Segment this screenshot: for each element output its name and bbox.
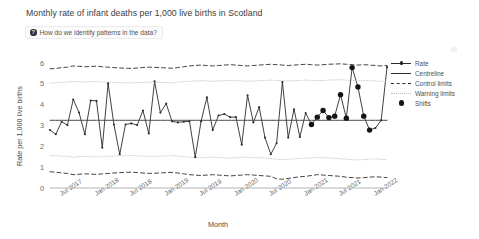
shift-marker[interactable] xyxy=(315,114,320,119)
rate-point xyxy=(206,96,208,98)
legend-swatch-line-marker-icon xyxy=(391,58,411,68)
legend-item-centreline[interactable]: Centreline xyxy=(391,68,477,78)
legend-label: Rate xyxy=(415,60,429,67)
rate-point xyxy=(235,116,237,118)
shift-marker[interactable] xyxy=(332,113,337,118)
rate-point xyxy=(374,127,376,129)
x-tick-label: Jul 2017 xyxy=(58,177,83,197)
x-tick-label: Jul 2018 xyxy=(128,177,153,197)
rate-point xyxy=(270,153,272,155)
y-axis-title: Rate per 1,000 live births xyxy=(15,86,24,166)
rate-point xyxy=(252,121,254,123)
x-tick-label: Jan 2019 xyxy=(163,176,190,197)
rate-point xyxy=(113,123,115,125)
rate-point xyxy=(183,121,185,123)
shift-marker[interactable] xyxy=(349,65,354,70)
rate-point xyxy=(194,156,196,158)
rate-point xyxy=(171,120,173,122)
rate-point xyxy=(95,100,97,102)
rate-point xyxy=(130,122,132,124)
y-tick-label: 5 xyxy=(40,79,44,88)
chart-page: Monthly rate of infant deaths per 1,000 … xyxy=(0,0,479,239)
shift-marker[interactable] xyxy=(320,108,325,113)
shift-marker[interactable] xyxy=(309,122,314,127)
series-upper-control-limit xyxy=(50,64,387,69)
shift-marker[interactable] xyxy=(344,116,349,121)
x-tick-label: Jan 2020 xyxy=(233,176,260,197)
y-tick-label: 6 xyxy=(40,59,44,68)
shift-marker[interactable] xyxy=(338,92,343,97)
rate-point xyxy=(386,66,388,68)
rate-point xyxy=(165,103,167,105)
shift-marker[interactable] xyxy=(361,113,366,118)
rate-point xyxy=(293,108,295,110)
x-tick-label: Jan 2022 xyxy=(372,176,399,197)
rate-point xyxy=(223,113,225,115)
series-lower-warning-limit xyxy=(50,156,387,160)
rate-point xyxy=(159,112,161,114)
rate-point xyxy=(276,142,278,144)
legend-item-warning-limits[interactable]: Warning limits xyxy=(391,88,477,98)
rate-point xyxy=(200,120,202,122)
control-chart: 0123456 Jul 2017Jan 2018Jul 2018Jan 2019… xyxy=(0,0,479,239)
rate-point xyxy=(305,112,307,114)
rate-point xyxy=(212,129,214,131)
y-tick-label: 0 xyxy=(40,184,44,193)
rate-point xyxy=(72,98,74,100)
rate-point xyxy=(119,153,121,155)
x-axis-ticks: Jul 2017Jan 2018Jul 2018Jan 2019Jul 2019… xyxy=(58,176,399,197)
rate-point xyxy=(188,120,190,122)
y-tick-label: 3 xyxy=(40,121,44,130)
rate-point xyxy=(90,99,92,101)
legend-item-shifts[interactable]: Shifts xyxy=(391,98,477,108)
rate-point xyxy=(66,124,68,126)
rate-point xyxy=(247,94,249,96)
y-tick-label: 4 xyxy=(40,100,44,109)
x-tick-label: Jan 2018 xyxy=(93,176,120,197)
chart-svg: 0123456 Jul 2017Jan 2018Jul 2018Jan 2019… xyxy=(0,0,479,239)
rate-point xyxy=(61,121,63,123)
legend-label: Control limits xyxy=(415,80,452,87)
rate-point xyxy=(287,137,289,139)
shift-marker[interactable] xyxy=(326,115,331,120)
y-tick-label: 2 xyxy=(40,142,44,151)
legend-item-control-limits[interactable]: Control limits xyxy=(391,78,477,88)
rate-point xyxy=(49,129,51,131)
legend-swatch-solid-line-icon xyxy=(391,68,411,78)
rate-point xyxy=(78,112,80,114)
chart-legend: RateCentrelineControl limitsWarning limi… xyxy=(391,58,477,108)
x-tick-label: Jul 2019 xyxy=(198,177,223,197)
legend-label: Centreline xyxy=(415,70,444,77)
y-axis-ticks: 0123456 xyxy=(40,59,44,193)
shift-marker[interactable] xyxy=(355,84,360,89)
rate-point xyxy=(124,123,126,125)
rate-point xyxy=(154,80,156,82)
rate-point xyxy=(241,144,243,146)
legend-swatch-dashed-line-icon xyxy=(391,78,411,88)
y-tick-label: 1 xyxy=(40,163,44,172)
rate-point xyxy=(107,82,109,84)
legend-swatch-dotted-line-icon xyxy=(391,88,411,98)
rate-point xyxy=(380,119,382,121)
legend-swatch-big-dot-icon xyxy=(391,98,411,108)
rate-point xyxy=(101,147,103,149)
shift-markers xyxy=(309,65,373,133)
x-tick-label: Jan 2021 xyxy=(302,176,329,197)
rate-point xyxy=(258,106,260,108)
x-axis-title: Month xyxy=(208,220,228,229)
series-layer xyxy=(49,64,388,179)
shift-marker[interactable] xyxy=(367,127,372,132)
rate-point xyxy=(217,114,219,116)
series-upper-warning-limit xyxy=(50,80,387,83)
rate-point xyxy=(299,136,301,138)
rate-point xyxy=(142,109,144,111)
legend-label: Shifts xyxy=(415,100,431,107)
legend-label: Warning limits xyxy=(415,90,455,97)
rate-point xyxy=(84,133,86,135)
x-tick-label: Jul 2020 xyxy=(268,177,293,197)
rate-point xyxy=(177,121,179,123)
rate-point xyxy=(55,133,57,135)
rate-point xyxy=(281,81,283,83)
rate-point xyxy=(148,132,150,134)
legend-item-rate[interactable]: Rate xyxy=(391,58,477,68)
